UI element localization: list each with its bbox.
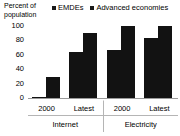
- bar-advanced-economies: [158, 26, 172, 98]
- x-axis-group-row: Internet Electricity: [28, 115, 178, 132]
- bar-cluster-internet-latest: [69, 26, 99, 98]
- y-tick-60: 60: [16, 51, 24, 59]
- plot-area: 100 80 60 40 20 0: [0, 20, 180, 100]
- y-tick-40: 40: [16, 65, 24, 73]
- bar-group-internet: [28, 26, 103, 98]
- legend-swatch-icon: [90, 6, 94, 10]
- y-tick-100: 100: [11, 22, 24, 30]
- bar-emdes: [69, 52, 83, 98]
- legend-item-advanced-economies: Advanced economies: [90, 3, 168, 12]
- x-group-label-internet: Internet: [28, 115, 103, 132]
- y-tick-20: 20: [16, 80, 24, 88]
- x-tick-electricity-2000: 2000: [107, 104, 137, 113]
- x-tick-electricity-latest: Latest: [144, 104, 174, 113]
- legend-item-emdes: EMDEs: [52, 3, 83, 12]
- bars-canvas: [28, 26, 178, 99]
- bar-emdes: [32, 97, 46, 98]
- bar-advanced-economies: [83, 33, 97, 98]
- x-ticks-electricity: 2000 Latest: [103, 100, 179, 115]
- chart-legend: EMDEs Advanced economies: [52, 3, 168, 12]
- y-axis-title: Percent of population: [4, 2, 50, 19]
- x-axis-tick-row: 2000 Latest 2000 Latest: [28, 100, 178, 115]
- legend-label-emdes: EMDEs: [58, 3, 83, 12]
- legend-swatch-icon: [52, 6, 56, 10]
- x-group-label-electricity: Electricity: [103, 115, 179, 132]
- bar-advanced-economies: [46, 77, 60, 98]
- y-axis-title-line2: population: [4, 11, 50, 20]
- bar-cluster-electricity-2000: [107, 26, 137, 98]
- y-axis-labels: 100 80 60 40 20 0: [0, 20, 26, 100]
- bar-advanced-economies: [121, 26, 135, 98]
- bar-emdes: [144, 38, 158, 98]
- bar-cluster-internet-2000: [32, 26, 62, 98]
- legend-label-advanced-economies: Advanced economies: [96, 3, 168, 12]
- bar-chart: Percent of population EMDEs Advanced eco…: [0, 0, 180, 136]
- y-axis-title-line1: Percent of: [4, 2, 50, 11]
- x-axis: 2000 Latest 2000 Latest Internet Electri…: [28, 100, 178, 134]
- bar-emdes: [107, 50, 121, 98]
- x-tick-internet-2000: 2000: [32, 104, 62, 113]
- x-tick-internet-latest: Latest: [69, 104, 99, 113]
- x-ticks-internet: 2000 Latest: [28, 100, 103, 115]
- bar-cluster-electricity-latest: [144, 26, 174, 98]
- bar-groups: [28, 26, 178, 98]
- y-tick-80: 80: [16, 37, 24, 45]
- bar-group-electricity: [103, 26, 178, 98]
- y-tick-0: 0: [20, 94, 24, 102]
